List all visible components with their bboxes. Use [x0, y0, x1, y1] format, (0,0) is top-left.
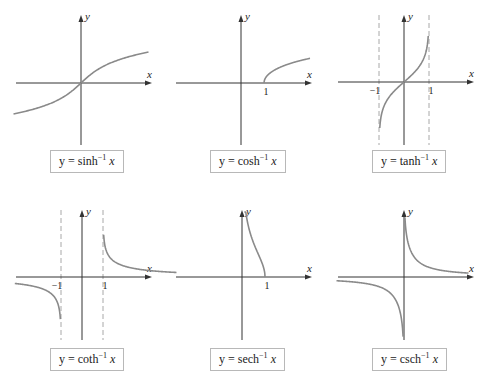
chart-panel-atanh: xy−11 [338, 10, 474, 145]
label-var: x [107, 352, 115, 366]
label-lhs: y = [381, 154, 400, 168]
tick-label: 1 [429, 85, 434, 96]
tick-label: −1 [370, 85, 381, 96]
curve-acoth [104, 235, 177, 273]
x-axis-label: x [146, 68, 152, 80]
label-fn: csch [400, 352, 421, 366]
x-axis-label: x [468, 262, 474, 274]
label-lhs: y = [219, 352, 238, 366]
x-axis-arrow-icon [145, 81, 152, 86]
label-fn: sinh [78, 154, 98, 168]
chart-panel-asech: xy1 [176, 205, 312, 340]
x-axis-label: x [306, 262, 312, 274]
tick-label: 1 [265, 280, 270, 291]
y-axis-label: y [84, 10, 90, 22]
label-var: x [429, 154, 437, 168]
chart-panel-acsch: xy [337, 205, 475, 340]
label-var: x [106, 154, 114, 168]
function-label-acosh: y = cosh−1 x [210, 150, 286, 173]
x-axis-arrow-icon [305, 81, 312, 86]
curve-acosh [264, 58, 310, 83]
y-axis-arrow-icon [79, 15, 84, 22]
y-axis-arrow-icon [402, 15, 407, 22]
chart-panel-acosh: xy1 [176, 10, 312, 145]
y-axis-arrow-icon [239, 15, 244, 22]
curve-acsch [337, 281, 404, 337]
tick-label: 1 [103, 280, 108, 291]
curve-asech [244, 212, 265, 277]
label-fn: coth [78, 352, 99, 366]
x-axis-label: x [306, 68, 312, 80]
tick-label: 1 [264, 86, 269, 97]
function-label-acsch: y = csch−1 x [372, 348, 447, 371]
y-axis-label: y [407, 10, 413, 22]
label-exponent: −1 [259, 351, 268, 360]
y-axis-arrow-icon [240, 210, 245, 217]
label-lhs: y = [381, 352, 400, 366]
y-axis-label: y [244, 10, 250, 22]
label-lhs: y = [59, 154, 78, 168]
label-var: x [430, 352, 438, 366]
function-label-atanh: y = tanh−1 x [372, 150, 446, 173]
label-var: x [268, 154, 276, 168]
x-axis-arrow-icon [305, 275, 312, 280]
label-lhs: y = [59, 352, 78, 366]
label-exponent: −1 [421, 351, 430, 360]
x-axis-arrow-icon [145, 275, 152, 280]
curve-acsch [405, 217, 469, 273]
y-axis-label: y [85, 205, 91, 217]
label-lhs: y = [219, 154, 238, 168]
label-fn: sech [238, 352, 259, 366]
x-axis-arrow-icon [467, 80, 474, 85]
y-axis-arrow-icon [402, 210, 407, 217]
function-label-acoth: y = coth−1 x [50, 348, 124, 371]
tick-label: −1 [52, 280, 63, 291]
figure-canvas: xyxy1xy−11xy−11xy1xy [0, 0, 488, 390]
y-axis-label: y [407, 205, 413, 217]
function-label-asinh: y = sinh−1 x [50, 150, 124, 173]
function-label-asech: y = sech−1 x [210, 348, 285, 371]
label-exponent: −1 [420, 153, 429, 162]
label-fn: tanh [400, 154, 421, 168]
x-axis-label: x [468, 67, 474, 79]
chart-panel-asinh: xy [14, 10, 153, 145]
x-axis-label: x [146, 262, 152, 274]
chart-panel-acoth: xy−11 [15, 205, 177, 340]
label-fn: cosh [238, 154, 260, 168]
x-axis-arrow-icon [467, 275, 474, 280]
label-var: x [268, 352, 276, 366]
y-axis-arrow-icon [80, 210, 85, 217]
label-exponent: −1 [98, 351, 107, 360]
